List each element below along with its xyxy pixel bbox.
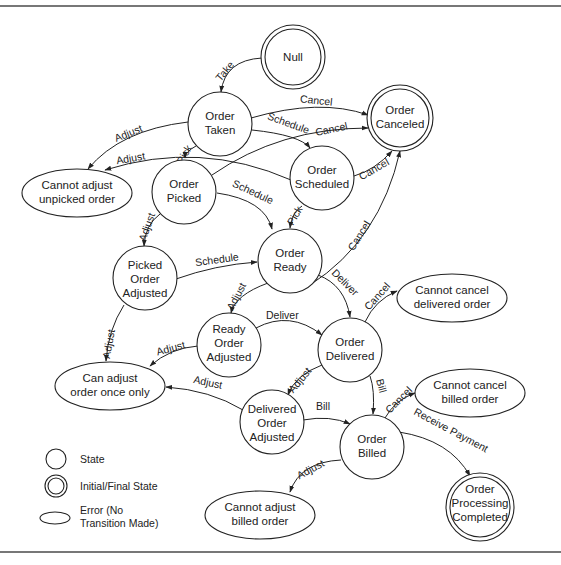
label-readyadj-adjust: Adjust	[155, 338, 186, 357]
label-ready-cancel: Cancel	[345, 218, 372, 252]
node-picked-order-adjusted: Picked Order Adjusted	[113, 246, 177, 310]
node-order-taken: Order Taken	[188, 92, 252, 156]
svg-text:Ready: Ready	[273, 261, 306, 273]
legend-initial-final: Initial/Final State	[45, 475, 158, 497]
label-scheduled-cancel: Cancel	[357, 155, 391, 182]
svg-text:Order: Order	[205, 110, 235, 122]
label-readyadj-deliver: Deliver	[266, 309, 299, 321]
node-cannot-adjust-unpicked: Cannot adjust unpicked order	[22, 169, 132, 217]
svg-text:Transition Made): Transition Made)	[80, 517, 158, 529]
svg-text:State: State	[80, 453, 105, 465]
label-pickedadj-schedule: Schedule	[194, 250, 239, 268]
svg-text:Completed: Completed	[452, 511, 508, 523]
svg-text:Adjusted: Adjusted	[123, 287, 168, 299]
svg-text:Ready: Ready	[212, 323, 245, 335]
svg-text:Initial/Final State: Initial/Final State	[80, 480, 158, 492]
svg-text:Delivered: Delivered	[326, 350, 375, 362]
svg-text:Picked: Picked	[128, 259, 163, 271]
node-ready-order-adjusted: Ready Order Adjusted	[197, 313, 261, 377]
label-pickedadj-adjust: Adjust	[100, 328, 117, 359]
edge-deladj-bill	[303, 418, 350, 424]
node-order-canceled: Order Canceled	[367, 85, 433, 151]
node-order-ready: Order Ready	[258, 229, 322, 293]
svg-text:Adjusted: Adjusted	[250, 431, 295, 443]
node-cannot-adjust-billed: Cannot adjust billed order	[205, 491, 315, 539]
svg-text:delivered order: delivered order	[414, 298, 491, 310]
svg-text:Order: Order	[275, 247, 305, 259]
ellipse-icon	[40, 512, 70, 524]
node-can-adjust-once: Can adjust order once only	[55, 362, 165, 410]
svg-text:Order: Order	[385, 104, 415, 116]
label-taken-adjust: Adjust	[112, 122, 144, 144]
svg-text:Cannot adjust: Cannot adjust	[42, 179, 114, 191]
node-cannot-cancel-delivered: Cannot cancel delivered order	[397, 274, 507, 322]
state-circle-icon	[46, 449, 66, 469]
label-scheduled-pick: Pick	[284, 203, 305, 227]
svg-text:Order: Order	[169, 178, 199, 190]
node-delivered-order-adjusted: Delivered Order Adjusted	[240, 390, 304, 454]
label-deladj-bill: Bill	[316, 400, 330, 412]
label-picked-schedule: Schedule	[231, 177, 276, 206]
edge-readyadj-deliver	[256, 320, 322, 335]
label-delivered-adjust: Adjust	[286, 365, 314, 395]
label-taken-cancel: Cancel	[299, 92, 333, 107]
svg-text:Picked: Picked	[167, 192, 202, 204]
svg-text:Order: Order	[357, 433, 387, 445]
node-order-billed: Order Billed	[340, 415, 404, 479]
svg-text:Delivered: Delivered	[248, 403, 297, 415]
state-diagram: Take Cancel Schedule Adjust Pick Adjust …	[0, 0, 561, 565]
svg-text:Error (No: Error (No	[80, 504, 123, 516]
label-ready-deliver: Deliver	[330, 266, 362, 298]
legend: State Initial/Final State Error (No Tran…	[40, 449, 158, 529]
node-null: Null	[261, 25, 325, 89]
edge-deladj-adjust	[166, 387, 243, 410]
svg-text:billed order: billed order	[442, 393, 499, 405]
node-order-picked: Order Picked	[152, 160, 216, 224]
label-ready-adjust: Adjust	[224, 280, 248, 311]
node-order-delivered: Order Delivered	[318, 318, 382, 382]
node-cannot-cancel-billed: Cannot cancel billed order	[415, 369, 525, 417]
svg-text:Adjusted: Adjusted	[207, 351, 252, 363]
svg-text:Order: Order	[465, 483, 495, 495]
svg-text:Cannot cancel: Cannot cancel	[415, 284, 489, 296]
label-take: Take	[213, 58, 237, 83]
label-taken-schedule: Schedule	[266, 110, 311, 136]
svg-text:Billed: Billed	[358, 447, 386, 459]
edge-delivered-bill	[370, 376, 374, 414]
label-picked-cancel: Cancel	[314, 119, 348, 138]
svg-text:Order: Order	[257, 417, 287, 429]
svg-text:Order: Order	[335, 336, 365, 348]
label-delivered-bill: Bill	[374, 377, 389, 394]
svg-text:Null: Null	[283, 51, 303, 63]
svg-text:Taken: Taken	[205, 124, 236, 136]
svg-text:Order: Order	[307, 164, 337, 176]
svg-text:Order: Order	[214, 337, 244, 349]
svg-text:Cannot adjust: Cannot adjust	[225, 501, 297, 513]
svg-text:order once only: order once only	[70, 386, 150, 398]
label-scheduled-adjust: Adjust	[115, 149, 146, 166]
svg-text:Cannot cancel: Cannot cancel	[433, 379, 507, 391]
svg-text:Scheduled: Scheduled	[295, 178, 349, 190]
svg-text:unpicked order: unpicked order	[39, 193, 115, 205]
svg-text:billed order: billed order	[232, 515, 289, 527]
node-order-processing-completed: Order Processing Completed	[446, 473, 514, 541]
node-order-scheduled: Order Scheduled	[290, 146, 354, 210]
legend-error: Error (No Transition Made)	[40, 504, 158, 529]
label-billed-adjust: Adjust	[295, 457, 326, 481]
legend-state: State	[46, 449, 105, 469]
svg-text:Canceled: Canceled	[376, 118, 425, 130]
svg-text:Processing: Processing	[452, 497, 509, 509]
svg-text:Can adjust: Can adjust	[83, 372, 139, 384]
svg-text:Order: Order	[130, 273, 160, 285]
label-picked-adjust: Adjust	[136, 211, 157, 243]
